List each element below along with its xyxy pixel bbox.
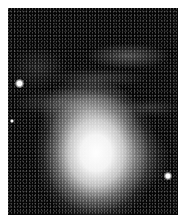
small-star-left	[10, 119, 14, 123]
bright-star-left	[15, 79, 24, 88]
star-field-noise	[8, 8, 178, 215]
nebula-photograph	[8, 8, 178, 215]
bright-star-right	[164, 172, 172, 180]
